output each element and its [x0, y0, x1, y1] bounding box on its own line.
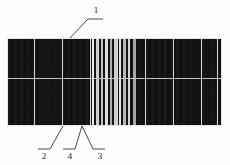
callout-3-leader	[82, 126, 93, 149]
callout-1-leader	[70, 19, 88, 38]
callout-2-number: 2	[38, 152, 50, 161]
figure-canvas: 1243	[0, 0, 230, 165]
callout-3-number: 3	[94, 152, 106, 161]
solar-module-el-image	[7, 38, 222, 126]
callout-1-number: 1	[90, 6, 102, 15]
callout-4-number: 4	[64, 152, 76, 161]
callout-2-leader	[50, 126, 63, 149]
callout-4-leader	[75, 126, 82, 149]
panel-outline	[7, 38, 222, 126]
